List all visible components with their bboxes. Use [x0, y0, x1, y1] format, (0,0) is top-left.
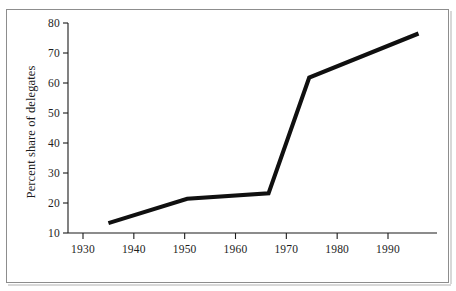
x-tick-label: 1960: [224, 243, 248, 255]
x-tick-label: 1990: [376, 243, 400, 255]
y-tick-label: 50: [48, 107, 60, 119]
y-tick-label: 20: [48, 197, 60, 209]
y-tick-label: 10: [48, 227, 60, 239]
y-tick-label: 70: [48, 47, 60, 59]
x-tick-label: 1950: [173, 243, 197, 255]
y-tick-label: 60: [48, 77, 60, 89]
y-tick-label: 30: [48, 167, 60, 179]
y-axis-title: Percent share of delegates: [24, 32, 39, 232]
x-tick-label: 1980: [325, 243, 349, 255]
y-tick-label: 40: [48, 137, 60, 149]
line-chart-plot: 1020304050607080193019401950196019701980…: [0, 0, 456, 291]
x-tick-label: 1930: [71, 243, 95, 255]
y-tick-label: 80: [48, 17, 60, 29]
data-series-line: [108, 34, 418, 224]
x-tick-label: 1940: [122, 243, 146, 255]
x-tick-label: 1970: [274, 243, 298, 255]
figure-container: 1020304050607080193019401950196019701980…: [0, 0, 456, 291]
